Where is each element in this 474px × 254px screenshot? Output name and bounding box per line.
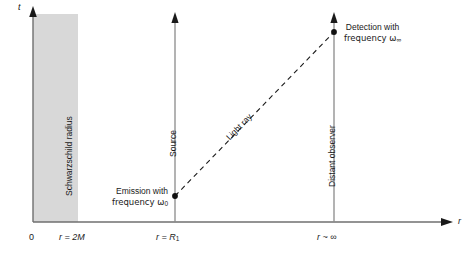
source-worldline-arrowhead — [171, 12, 178, 23]
r-axis-label: r — [458, 216, 461, 227]
emission-annotation-line2: frequency ω0 — [0, 197, 168, 209]
light-ray-line — [175, 32, 334, 196]
detection-event-dot — [331, 29, 337, 35]
detection-frequency-text: frequency ω — [344, 33, 396, 43]
tick-label-source-radius-subscript: 1 — [176, 235, 180, 242]
distant-observer-worldline-label: Distant observer — [327, 125, 338, 187]
tick-label-origin: 0 — [29, 232, 34, 243]
tick-label-source-radius: r = R1 — [156, 232, 179, 245]
source-worldline-label: Source — [168, 130, 179, 157]
tick-label-distant-observer-radius: r ~ ∞ — [317, 232, 337, 243]
emission-frequency-text: frequency ω — [112, 197, 164, 207]
detection-frequency-subscript: ∞ — [396, 36, 401, 43]
schwarzschild-radius-label: Schwarzschild radius — [64, 116, 75, 196]
emission-annotation: Emission with frequency ω0 — [0, 186, 168, 209]
emission-annotation-line1: Emission with — [0, 186, 168, 197]
t-axis-label: t — [18, 2, 21, 13]
t-axis-arrowhead — [29, 6, 37, 17]
distant-observer-worldline-arrowhead — [330, 12, 337, 23]
r-axis-arrowhead — [441, 218, 453, 226]
detection-annotation-line1: Detection with — [344, 22, 401, 33]
emission-frequency-subscript: 0 — [164, 200, 168, 207]
tick-label-source-radius-text: r = R — [156, 232, 176, 242]
tick-label-distant-observer-radius-text: r ~ ∞ — [317, 232, 337, 242]
tick-label-schwarzschild-radius: r = 2M — [59, 232, 85, 243]
tick-label-schwarzschild-radius-text: r = 2M — [59, 232, 85, 242]
detection-annotation-line2: frequency ω∞ — [344, 33, 401, 45]
emission-event-dot — [172, 193, 178, 199]
detection-annotation: Detection with frequency ω∞ — [344, 22, 401, 45]
